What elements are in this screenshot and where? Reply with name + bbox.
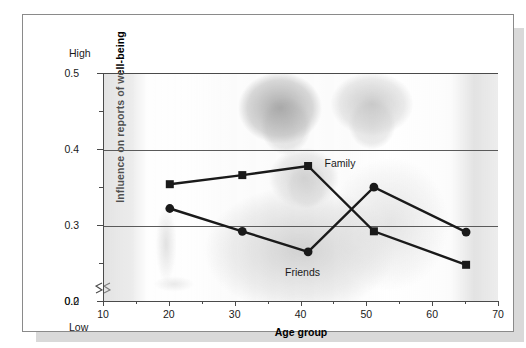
data-point-friends-31: [238, 227, 247, 236]
y-tick-label-0.5: 0.5: [64, 68, 79, 79]
x-tick-label-60: 60: [412, 309, 452, 320]
data-point-family-20: [166, 180, 174, 188]
x-axis-title: Age group: [103, 326, 499, 338]
y-tick-label-0.3: 0.3: [64, 220, 79, 231]
chart-figure: High Low Influence on reports of well-be…: [0, 0, 526, 348]
x-tick-label-50: 50: [346, 309, 386, 320]
x-tick-label-10: 10: [83, 309, 123, 320]
series-plot: [104, 74, 404, 224]
series-label-friends: Friends: [285, 266, 320, 278]
y-axis-caption-low: Low: [69, 321, 88, 333]
data-point-family-41: [304, 162, 312, 170]
x-tick-label-40: 40: [281, 309, 321, 320]
data-point-friends-41: [304, 247, 313, 256]
data-point-family-65: [462, 261, 470, 269]
x-tick-label-30: 30: [215, 309, 255, 320]
data-point-friends-65: [462, 228, 471, 237]
x-axis-line: [103, 301, 499, 302]
chart-card: High Low Influence on reports of well-be…: [22, 14, 514, 332]
plot-area: FamilyFriends: [103, 73, 498, 301]
series-label-family: Family: [325, 157, 356, 169]
data-point-family-51: [370, 227, 378, 235]
y-axis-caption-high: High: [69, 47, 91, 59]
data-point-friends-51: [370, 183, 379, 192]
y-tick-label-0.4: 0.4: [64, 144, 79, 155]
data-point-family-31: [238, 171, 246, 179]
x-tick-label-20: 20: [149, 309, 189, 320]
gridline-y-0.3: [104, 226, 498, 227]
y-tick-label-zero: 0.0: [64, 296, 79, 307]
x-tick-label-70: 70: [478, 309, 518, 320]
data-point-friends-20: [165, 204, 174, 213]
